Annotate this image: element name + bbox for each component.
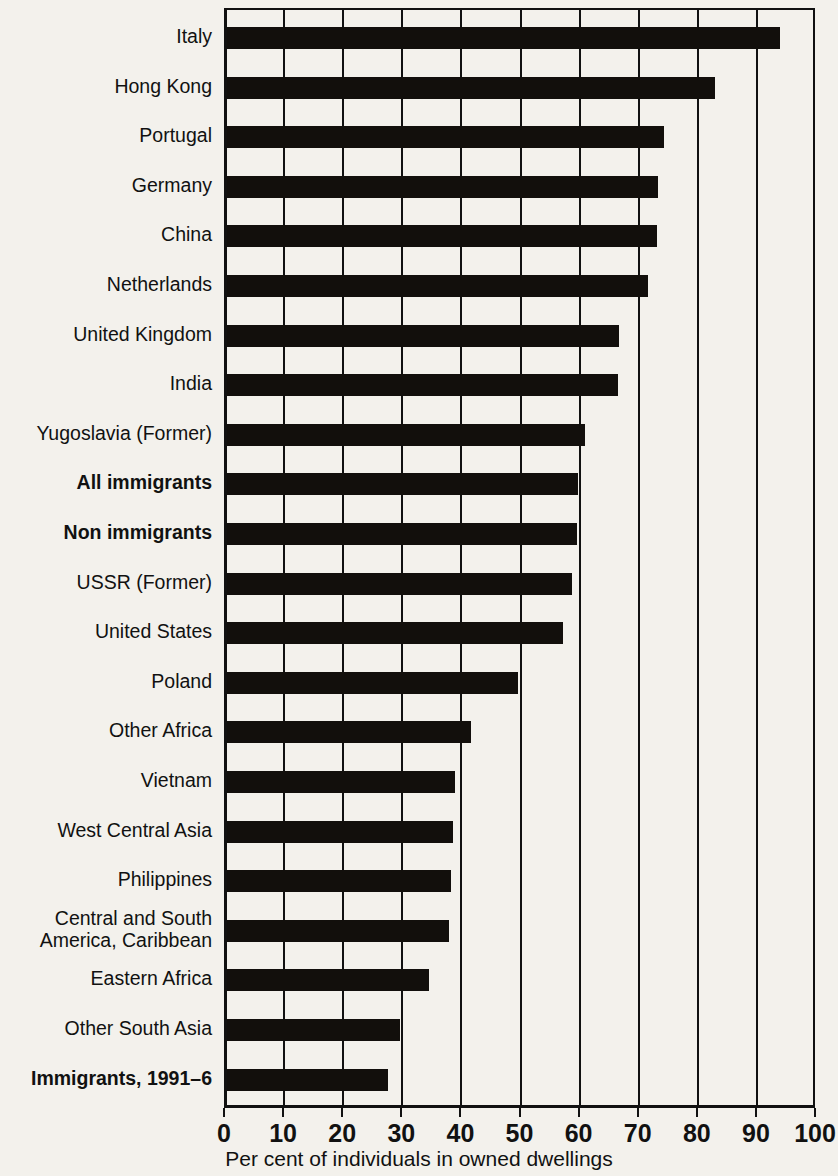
x-tick-label: 100 — [794, 1118, 836, 1148]
x-tick-60 — [578, 1108, 580, 1117]
bar — [227, 573, 572, 595]
category-label-line: All immigrants — [0, 471, 212, 493]
category-label-text: China — [0, 223, 224, 245]
category-label-text: Other Africa — [0, 719, 224, 741]
category-label-text: United States — [0, 620, 224, 642]
bar — [227, 77, 715, 99]
gridline-90 — [756, 10, 758, 1105]
category-label: Immigrants, 1991–6 — [0, 1067, 224, 1089]
category-label-text: Poland — [0, 670, 224, 692]
gridline-50 — [520, 10, 522, 1105]
category-label-line: America, Caribbean — [0, 929, 212, 951]
category-label-text: Italy — [0, 25, 224, 47]
category-label-line: Vietnam — [0, 769, 212, 791]
bar — [227, 870, 451, 892]
bar — [227, 969, 429, 991]
bar — [227, 523, 577, 545]
x-tick-0 — [223, 1108, 225, 1117]
x-axis-title: Per cent of individuals in owned dwellin… — [0, 1146, 838, 1172]
category-label: Italy — [0, 25, 224, 47]
category-label: USSR (Former) — [0, 571, 224, 593]
category-label-text: Immigrants, 1991–6 — [0, 1067, 224, 1089]
bar — [227, 672, 518, 694]
gridline-60 — [579, 10, 581, 1105]
category-label: United Kingdom — [0, 323, 224, 345]
x-tick-70 — [637, 1108, 639, 1117]
bar — [227, 325, 619, 347]
x-tick-label: 0 — [217, 1118, 231, 1148]
bar — [227, 821, 453, 843]
bar — [227, 622, 563, 644]
x-tick-label: 80 — [683, 1118, 711, 1148]
bar — [227, 771, 455, 793]
category-label: United States — [0, 620, 224, 642]
gridline-80 — [697, 10, 699, 1105]
category-label-line: Eastern Africa — [0, 967, 212, 989]
category-label-text: Eastern Africa — [0, 967, 224, 989]
x-tick-10 — [282, 1108, 284, 1117]
category-label: Hong Kong — [0, 75, 224, 97]
category-label-line: Other Africa — [0, 719, 212, 741]
category-label-text: USSR (Former) — [0, 571, 224, 593]
bar — [227, 275, 648, 297]
category-label-line: Philippines — [0, 868, 212, 890]
x-tick-label: 90 — [742, 1118, 770, 1148]
category-label: Netherlands — [0, 273, 224, 295]
category-label-line: Italy — [0, 25, 212, 47]
x-tick-label: 30 — [387, 1118, 415, 1148]
category-label-line: India — [0, 372, 212, 394]
x-tick-label: 60 — [565, 1118, 593, 1148]
category-label-text: India — [0, 372, 224, 394]
category-label-line: Immigrants, 1991–6 — [0, 1067, 212, 1089]
category-label-line: China — [0, 223, 212, 245]
bar — [227, 27, 780, 49]
category-label: Eastern Africa — [0, 967, 224, 989]
bar — [227, 225, 657, 247]
category-label: Poland — [0, 670, 224, 692]
category-label-line: United Kingdom — [0, 323, 212, 345]
category-label-text: Netherlands — [0, 273, 224, 295]
x-tick-label: 10 — [269, 1118, 297, 1148]
x-tick-label: 70 — [624, 1118, 652, 1148]
category-label-text: All immigrants — [0, 471, 224, 493]
category-label: Central and SouthAmerica, Caribbean — [0, 907, 224, 951]
category-label-text: Non immigrants — [0, 521, 224, 543]
category-label: Other Africa — [0, 719, 224, 741]
category-label-line: Other South Asia — [0, 1017, 212, 1039]
category-label-text: Yugoslavia (Former) — [0, 422, 224, 444]
category-label: China — [0, 223, 224, 245]
category-label-line: West Central Asia — [0, 819, 212, 841]
category-label-text: Other South Asia — [0, 1017, 224, 1039]
gridline-40 — [460, 10, 462, 1105]
x-tick-100 — [814, 1108, 816, 1117]
category-label-line: Yugoslavia (Former) — [0, 422, 212, 444]
x-tick-20 — [341, 1108, 343, 1117]
category-label: Non immigrants — [0, 521, 224, 543]
category-label-line: Non immigrants — [0, 521, 212, 543]
category-label-text: United Kingdom — [0, 323, 224, 345]
category-label: All immigrants — [0, 471, 224, 493]
category-label-text: West Central Asia — [0, 819, 224, 841]
category-label: Yugoslavia (Former) — [0, 422, 224, 444]
x-tick-80 — [696, 1108, 698, 1117]
bar — [227, 473, 578, 495]
bar — [227, 1069, 388, 1091]
category-label: Philippines — [0, 868, 224, 890]
category-label-text: Hong Kong — [0, 75, 224, 97]
category-label: West Central Asia — [0, 819, 224, 841]
category-label-text: Philippines — [0, 868, 224, 890]
bar — [227, 920, 449, 942]
category-label: India — [0, 372, 224, 394]
category-label-line: Poland — [0, 670, 212, 692]
x-tick-90 — [755, 1108, 757, 1117]
x-tick-30 — [400, 1108, 402, 1117]
category-label-line: Central and South — [0, 907, 212, 929]
category-label-text: Central and SouthAmerica, Caribbean — [0, 907, 224, 951]
bar — [227, 721, 471, 743]
x-tick-label: 40 — [446, 1118, 474, 1148]
x-tick-label: 50 — [506, 1118, 534, 1148]
category-label-text: Vietnam — [0, 769, 224, 791]
category-label: Other South Asia — [0, 1017, 224, 1039]
category-label: Germany — [0, 174, 224, 196]
category-label-line: United States — [0, 620, 212, 642]
